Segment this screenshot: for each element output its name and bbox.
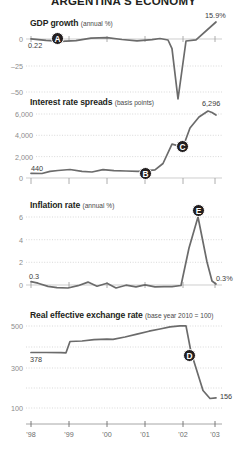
gdp-ytick-0: 0 xyxy=(6,35,23,44)
exchange-ytick-500: 500 xyxy=(2,322,23,331)
gdp-end-value-label: 15.9% xyxy=(205,11,226,20)
inflation-ytick-0: 0 xyxy=(6,281,23,290)
gdp-ytick-n25: –25 xyxy=(2,62,23,71)
exchange-rate-gridlines xyxy=(26,326,222,424)
exchange-start-value-label: 378 xyxy=(30,355,42,364)
marker-b[interactable]: B xyxy=(139,167,152,180)
xtick-03: '03 xyxy=(203,430,227,439)
inflation-ytick-2: 2 xyxy=(6,258,23,267)
interest-ytick-6000: 6,000 xyxy=(2,110,33,119)
exchange-rate-line xyxy=(31,326,216,399)
interest-rate-line xyxy=(31,111,216,174)
interest-end-value-label: 6,296 xyxy=(202,99,220,108)
exchange-ytick-100: 100 xyxy=(2,404,23,413)
exchange-end-value-label: 156 xyxy=(220,392,232,401)
marker-d[interactable]: D xyxy=(183,349,196,362)
inflation-ytick-6: 6 xyxy=(6,213,23,222)
argentina-economy-infographic: ARGENTINA'S ECONOMY xyxy=(0,0,247,449)
interest-rate-x-ticks xyxy=(31,178,215,184)
gdp-ytick-n50: –50 xyxy=(2,88,23,97)
exchange-rate-title: Real effective exchange rate (base year … xyxy=(30,310,213,320)
interest-ytick-4000: 4,000 xyxy=(2,131,33,140)
xtick-01: '01 xyxy=(133,430,157,439)
exchange-ytick-300: 300 xyxy=(2,364,23,373)
xtick-02: '02 xyxy=(171,430,195,439)
marker-e[interactable]: E xyxy=(192,204,205,217)
interest-ytick-0: 0 xyxy=(2,174,23,183)
marker-c[interactable]: C xyxy=(176,140,189,153)
inflation-ytick-4: 4 xyxy=(6,236,23,245)
xtick-98: '98 xyxy=(19,430,43,439)
marker-a[interactable]: A xyxy=(51,32,64,45)
inflation-line xyxy=(31,217,216,288)
gdp-growth-gridlines xyxy=(26,39,222,92)
inflation-end-value-label: 0.3% xyxy=(216,274,233,283)
inflation-title: Inflation rate (annual %) xyxy=(30,200,114,210)
charts-canvas xyxy=(0,0,247,449)
interest-start-value-label: 440 xyxy=(31,164,43,173)
inflation-gridlines xyxy=(26,217,222,285)
interest-ytick-2000: 2,000 xyxy=(2,153,33,162)
inflation-start-value-label: 0.3 xyxy=(29,272,39,281)
gdp-growth-title: GDP growth (annual %) xyxy=(30,18,113,28)
xtick-99: '99 xyxy=(57,430,81,439)
interest-rate-title: Interest rate spreads (basis points) xyxy=(30,97,154,107)
xtick-00: '00 xyxy=(95,430,119,439)
gdp-start-value-label: 0.22 xyxy=(28,41,42,50)
